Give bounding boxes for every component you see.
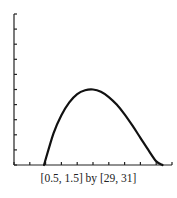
x-axis [14, 162, 172, 165]
chart [0, 0, 177, 170]
y-axis [14, 14, 17, 165]
window-caption: [0.5, 1.5] by [29, 31] [0, 172, 177, 184]
data-curve [44, 89, 163, 165]
